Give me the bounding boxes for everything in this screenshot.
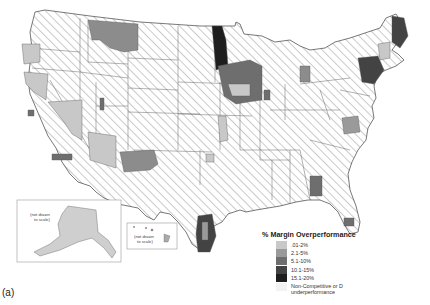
legend-swatch bbox=[276, 257, 287, 265]
legend-item: 15.1-20% bbox=[276, 274, 430, 282]
svg-text:to scale): to scale) bbox=[34, 217, 50, 222]
legend-label: 15.1-20% bbox=[291, 275, 314, 281]
legend-swatch bbox=[276, 266, 287, 274]
legend-label: 10.1-15% bbox=[291, 267, 314, 273]
legend-label: Non-Competitive or D underperformance bbox=[291, 283, 349, 296]
legend-item: Non-Competitive or D underperformance bbox=[276, 283, 430, 297]
legend-item: 5.1-10% bbox=[276, 257, 430, 265]
legend-title: % Margin Overperformance bbox=[262, 230, 430, 239]
legend-item: 10.1-15% bbox=[276, 266, 430, 274]
legend-label: .01-2% bbox=[291, 242, 308, 248]
svg-text:to scale): to scale) bbox=[137, 239, 153, 244]
legend-swatch bbox=[276, 283, 287, 291]
legend-swatch bbox=[276, 241, 287, 249]
figure-label: (a) bbox=[2, 287, 14, 298]
legend-swatch bbox=[276, 274, 287, 282]
map-legend: % Margin Overperformance .01-2% 2.1-5% 5… bbox=[262, 230, 430, 297]
legend-item: .01-2% bbox=[276, 241, 430, 249]
legend-item: 2.1-5% bbox=[276, 249, 430, 257]
hawaii-inset: (not drawn to scale) bbox=[127, 223, 177, 249]
alaska-inset: (not drawn to scale) bbox=[17, 200, 121, 262]
legend-swatch bbox=[276, 249, 287, 257]
legend-label: 2.1-5% bbox=[291, 250, 308, 256]
legend-label: 5.1-10% bbox=[291, 258, 311, 264]
